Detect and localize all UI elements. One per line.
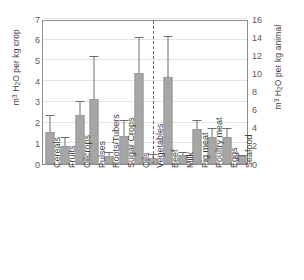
x-axis-category-label: Sugar Crops <box>127 117 136 168</box>
y-axis-left-tick: 0 <box>22 161 40 170</box>
x-axis-category-label: Milk <box>186 152 195 168</box>
y-axis-right-tick: 8 <box>252 88 272 97</box>
x-axis-category-label: Pulses <box>98 141 107 168</box>
y-axis-left-tick: 1 <box>22 140 40 149</box>
x-axis-category-label: Oilcrops <box>83 135 92 168</box>
y-axis-right-tick: 10 <box>252 70 272 79</box>
x-axis-category-labels: CerealsFruitsOilcropsPulsesRoots/TubersS… <box>42 168 248 280</box>
y-axis-right-title: m3 H2O per kg animal <box>273 11 283 123</box>
y-axis-right-tick: 2 <box>252 142 272 151</box>
y-axis-left-tick: 6 <box>22 36 40 45</box>
y-axis-right-tick: 16 <box>252 16 272 25</box>
y-axis-left-tick: 7 <box>22 16 40 25</box>
x-axis-category-label: Seafood <box>245 134 254 168</box>
x-axis-category-label: Fruits <box>68 146 77 169</box>
error-bar-cap-upper <box>90 56 99 57</box>
y-axis-left-ticks: 01234567 <box>20 0 40 280</box>
x-axis-category-label: Poultry meat <box>215 117 224 168</box>
x-axis-category-label: Roots/Tubers <box>112 114 121 168</box>
x-axis-category-label: Cereals <box>53 137 62 168</box>
y-axis-left-tick: 3 <box>22 98 40 107</box>
error-bar-cap-upper <box>75 101 84 102</box>
y-axis-left-tick: 5 <box>22 57 40 66</box>
error-bar-cap-upper <box>46 115 55 116</box>
error-bar-cap-upper <box>164 36 173 37</box>
y-axis-right-tick: 6 <box>252 106 272 115</box>
x-axis-category-label: Oils <box>142 153 151 169</box>
y-axis-right-tick: 4 <box>252 124 272 133</box>
y-axis-left-tick: 2 <box>22 119 40 128</box>
bar-slot <box>175 21 190 164</box>
x-axis-category-label: Vegetables <box>156 123 165 168</box>
x-axis-category-label: Eggs <box>230 147 239 168</box>
y-axis-left-tick: 4 <box>22 78 40 87</box>
error-bar-cap-upper <box>193 120 202 121</box>
y-axis-right-tick: 0 <box>252 161 272 170</box>
y-axis-right-tick: 12 <box>252 52 272 61</box>
error-bar-cap-upper <box>134 37 143 38</box>
x-axis-category-label: Pig meat <box>201 132 210 168</box>
y-axis-right-ticks: 0246810121416 <box>252 0 274 280</box>
chart-container: m3 H2O per kg crop m3 H2O per kg animal … <box>0 0 304 280</box>
y-axis-right-tick: 14 <box>252 34 272 43</box>
x-axis-category-label: Beef <box>171 149 180 168</box>
gridline <box>43 18 247 19</box>
